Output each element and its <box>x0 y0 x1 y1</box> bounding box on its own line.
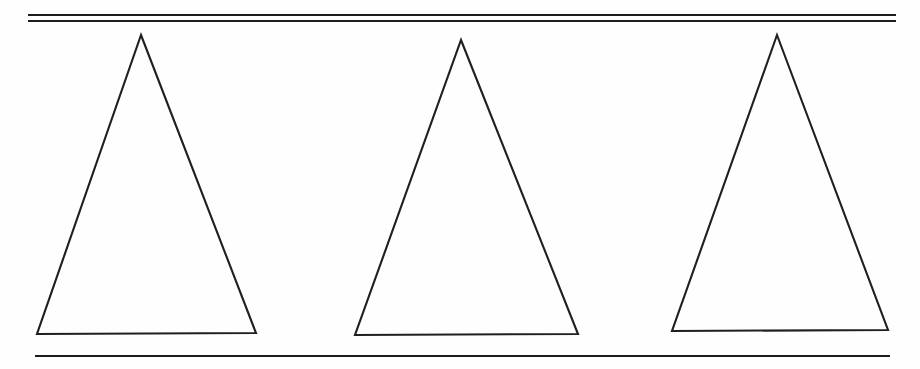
line-drawing-svg <box>0 0 920 369</box>
figure-canvas: Three Triangles Between Horizontal Rules <box>0 0 920 369</box>
